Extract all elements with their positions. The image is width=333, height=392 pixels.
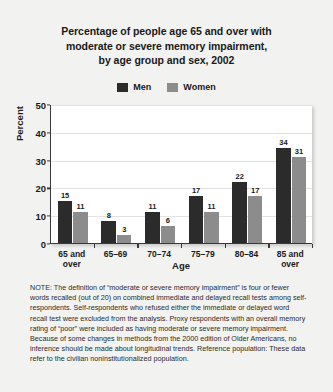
bar-group: 2217 — [226, 105, 270, 243]
y-tick-label-10: 10 — [35, 211, 46, 222]
chart-title: Percentage of people age 65 and over wit… — [16, 24, 317, 68]
y-tick-label-20: 20 — [35, 183, 46, 194]
bar-value-label: 11 — [208, 202, 216, 211]
bar-women[interactable]: 17 — [248, 196, 263, 243]
bar-group: 116 — [138, 105, 182, 243]
x-tick-label-4: 80–84 — [235, 249, 259, 259]
x-tick-label-line: 70–74 — [147, 249, 171, 259]
x-tick-mark-3 — [225, 244, 226, 248]
plot-wrapper: 151183116171122173431 Percent 0102030405… — [50, 105, 312, 244]
y-tick-label-30: 30 — [35, 155, 46, 166]
bar-value-label: 17 — [192, 186, 200, 195]
y-tick-label-0: 0 — [41, 239, 46, 250]
bar-men[interactable]: 22 — [232, 182, 247, 243]
bar-women[interactable]: 3 — [117, 235, 132, 243]
bar-value-label: 17 — [251, 186, 259, 195]
chart-legend: Men Women — [0, 82, 333, 92]
x-tick-mark-1 — [137, 244, 138, 248]
bar-group: 83 — [95, 105, 139, 243]
x-tick-label-line: 75–79 — [191, 249, 215, 259]
bar-value-label: 11 — [77, 202, 85, 211]
x-tick-mark-5 — [312, 244, 313, 248]
chart-figure: Percentage of people age 65 and over wit… — [0, 0, 333, 392]
bar-women[interactable]: 31 — [292, 157, 307, 243]
bars-layer: 151183116171122173431 — [51, 105, 312, 243]
chart-title-line-3: by age group and sex, 2002 — [16, 53, 317, 68]
bar-men[interactable]: 8 — [101, 221, 116, 243]
legend-swatch-women-icon — [167, 83, 178, 92]
y-tick-mark-20 — [47, 188, 51, 189]
legend-label-men: Men — [133, 82, 151, 92]
legend-item-women[interactable]: Women — [167, 82, 215, 92]
bar-value-label: 11 — [148, 202, 156, 211]
chart-note: NOTE: The definition of “moderate or sev… — [30, 283, 308, 365]
y-tick-mark-50 — [47, 104, 51, 105]
bar-value-label: 3 — [122, 225, 126, 234]
bar-value-label: 6 — [166, 216, 170, 225]
bar-value-label: 34 — [279, 138, 287, 147]
x-tick-label-3: 75–79 — [191, 249, 215, 259]
x-tick-mark-2 — [181, 244, 182, 248]
bar-value-label: 22 — [236, 172, 244, 181]
x-tick-label-line: 85 and — [277, 249, 304, 259]
chart-title-line-1: Percentage of people age 65 and over wit… — [16, 24, 317, 39]
y-tick-label-40: 40 — [35, 127, 46, 138]
y-tick-mark-40 — [47, 132, 51, 133]
x-tick-label-line: 65–69 — [104, 249, 128, 259]
x-tick-mark-0 — [94, 244, 95, 248]
bar-men[interactable]: 17 — [189, 196, 204, 243]
bar-women[interactable]: 6 — [161, 226, 176, 243]
x-tick-label-1: 65–69 — [104, 249, 128, 259]
bar-group: 1711 — [182, 105, 226, 243]
bar-women[interactable]: 11 — [204, 212, 219, 243]
y-tick-mark-0 — [47, 243, 51, 244]
y-tick-label-50: 50 — [35, 100, 46, 111]
y-tick-mark-10 — [47, 216, 51, 217]
bar-women[interactable]: 11 — [73, 212, 88, 243]
bar-men[interactable]: 34 — [276, 148, 291, 243]
legend-label-women: Women — [183, 82, 215, 92]
bar-value-label: 8 — [107, 211, 111, 220]
x-tick-label-line: 80–84 — [235, 249, 259, 259]
y-tick-mark-30 — [47, 160, 51, 161]
y-axis-label: Percent — [14, 106, 25, 141]
x-axis-label: Age — [50, 260, 312, 271]
x-tick-label-2: 70–74 — [147, 249, 171, 259]
legend-item-men[interactable]: Men — [117, 82, 151, 92]
legend-swatch-men-icon — [117, 83, 128, 92]
bar-men[interactable]: 11 — [145, 212, 160, 243]
bar-value-label: 31 — [295, 147, 303, 156]
chart-title-line-2: moderate or severe memory impairment, — [16, 39, 317, 54]
bar-men[interactable]: 15 — [58, 201, 73, 243]
x-tick-mark-4 — [268, 244, 269, 248]
bar-value-label: 15 — [61, 191, 69, 200]
x-tick-label-line: 65 and — [58, 249, 85, 259]
bar-group: 3431 — [269, 105, 313, 243]
bar-group: 1511 — [51, 105, 95, 243]
plot-area: 151183116171122173431 — [50, 105, 312, 244]
